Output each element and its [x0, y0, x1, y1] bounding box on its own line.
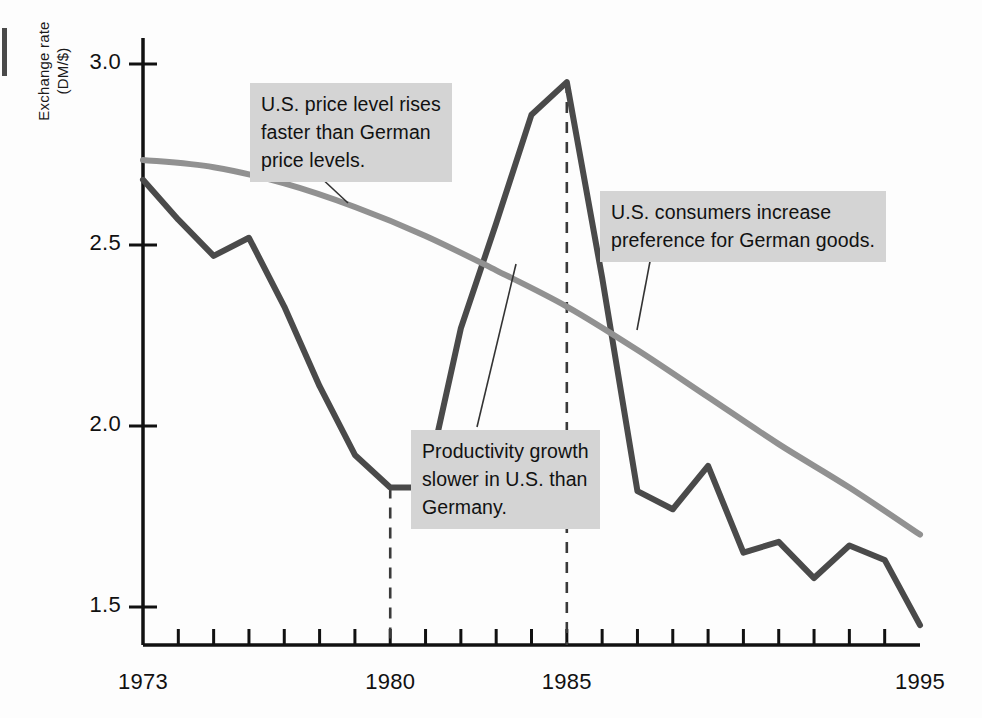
y-tick-label: 2.5 — [67, 230, 121, 256]
annotation-productivity-leader — [477, 264, 516, 427]
y-tick-label: 1.5 — [67, 592, 121, 618]
x-tick-label: 1985 — [522, 669, 612, 695]
annotation-consumer-preference-leader — [637, 251, 652, 330]
chart-plot-area — [0, 0, 982, 718]
annotation-price-level: U.S. price level rises faster than Germa… — [250, 83, 452, 182]
x-tick-label: 1980 — [345, 669, 435, 695]
annotation-productivity: Productivity growth slower in U.S. than … — [411, 430, 600, 529]
y-tick-label: 2.0 — [67, 411, 121, 437]
x-tick-label: 1995 — [875, 669, 965, 695]
x-tick-label: 1973 — [98, 669, 188, 695]
chart-figure: Exchange rate (DM/$) 3.02.52.01.5 197319… — [0, 0, 982, 718]
y-tick-label: 3.0 — [67, 49, 121, 75]
annotation-consumer-preference: U.S. consumers increase preference for G… — [600, 191, 886, 262]
